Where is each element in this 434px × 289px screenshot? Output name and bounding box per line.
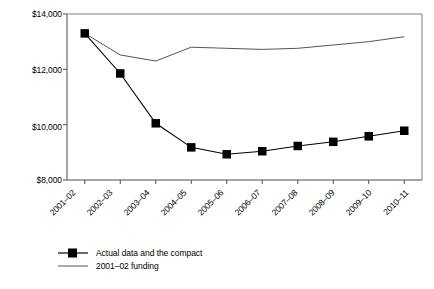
y-tick-label-8000: $8,000 — [2, 175, 62, 185]
y-tick-label-12000: $12,000 — [2, 65, 62, 75]
data-point-marker — [400, 127, 409, 136]
data-point-marker — [329, 138, 338, 147]
data-point-marker — [152, 119, 161, 128]
series-line-funding — [85, 33, 405, 61]
data-point-marker — [294, 142, 303, 151]
data-point-marker — [365, 132, 374, 141]
legend-label-actual: Actual data and the compact — [96, 248, 202, 258]
data-point-marker — [116, 69, 125, 78]
data-point-marker — [187, 143, 196, 152]
data-point-marker — [258, 147, 267, 156]
legend-swatch-marker-actual — [68, 249, 77, 258]
chart-canvas — [0, 0, 434, 289]
series-line-actual — [85, 33, 405, 154]
data-point-marker — [81, 29, 90, 38]
y-tick-label-14000: $14,000 — [2, 9, 62, 19]
x-axis-ticks — [85, 180, 405, 184]
y-axis-ticks — [63, 14, 67, 180]
y-tick-label-10000: $10,000 — [2, 122, 62, 132]
line-chart: $14,000 $12,000 $10,000 $8,000 2001–02 2… — [0, 0, 434, 289]
data-point-marker — [223, 150, 232, 159]
legend-label-funding: 2001–02 funding — [96, 261, 159, 271]
